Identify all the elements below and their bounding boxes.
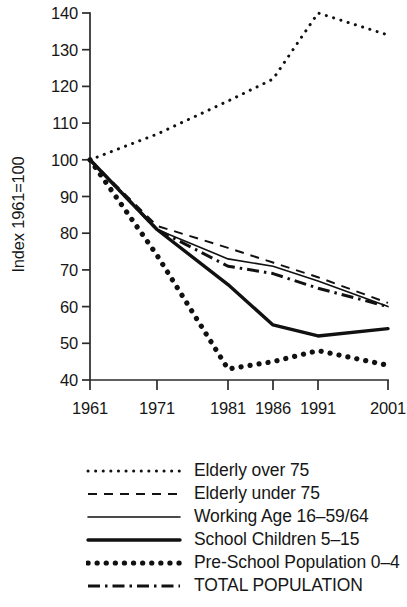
- x-axis-tick-label: 1986: [255, 399, 291, 417]
- legend-item: Pre-School Population 0–4: [86, 550, 400, 573]
- y-axis-tick-label: 60: [60, 298, 78, 316]
- legend-item-label: Pre-School Population 0–4: [194, 552, 400, 572]
- series-line-elderly-over-75: [90, 13, 388, 160]
- legend-item: Elderly over 75: [86, 458, 400, 481]
- x-axis-tick-label: 2001: [370, 399, 406, 417]
- chart-plot-area: Index 1961=100 4050607080901001101201301…: [0, 0, 407, 440]
- y-axis-tick-label: 40: [60, 371, 78, 389]
- legend-swatch-thick-solid: [86, 529, 182, 549]
- y-axis-tick-label: 90: [60, 188, 78, 206]
- x-axis-tick-label: 1991: [300, 399, 336, 417]
- y-axis-tick-label: 120: [51, 77, 78, 95]
- legend-item: Working Age 16–59/64: [86, 504, 400, 527]
- legend-item-label: Working Age 16–59/64: [194, 506, 369, 526]
- legend-item-label: TOTAL POPULATION: [194, 575, 363, 595]
- y-axis-tick-label: 50: [60, 334, 78, 352]
- legend-item-label: Elderly over 75: [194, 460, 309, 480]
- series-line-elderly-under-75: [90, 160, 388, 303]
- legend-item: Elderly under 75: [86, 481, 400, 504]
- legend-swatch-dash-dot: [86, 575, 182, 595]
- legend-item-label: Elderly under 75: [194, 483, 320, 503]
- legend-item-list: Elderly over 75Elderly under 75Working A…: [86, 458, 400, 596]
- chart-legend: Elderly over 75Elderly under 75Working A…: [0, 452, 407, 607]
- population-index-figure: Index 1961=100 4050607080901001101201301…: [0, 0, 407, 607]
- x-axis-tick-label: 1961: [72, 399, 108, 417]
- y-axis-tick-label: 100: [51, 151, 78, 169]
- legend-swatch-dashed: [86, 483, 182, 503]
- line-chart-svg: 4050607080901001101201301401961197119811…: [0, 0, 407, 440]
- y-axis-title: Index 1961=100: [9, 135, 28, 295]
- y-axis-tick-label: 130: [51, 41, 78, 59]
- x-axis-tick-label: 1971: [139, 399, 175, 417]
- series-line-pre-school-population-0-4: [90, 160, 388, 369]
- y-axis-tick-label: 140: [51, 4, 78, 22]
- y-axis-tick-label: 110: [52, 114, 78, 132]
- legend-swatch-fine-dotted: [86, 460, 182, 480]
- series-line-school-children-5-15: [90, 160, 388, 336]
- legend-item: School Children 5–15: [86, 527, 400, 550]
- legend-swatch-thin-solid: [86, 506, 182, 526]
- legend-item-label: School Children 5–15: [194, 529, 359, 549]
- legend-swatch-large-dotted: [86, 552, 182, 572]
- legend-item: TOTAL POPULATION: [86, 573, 400, 596]
- series-line-total-population: [90, 160, 388, 307]
- y-axis-tick-label: 70: [60, 261, 78, 279]
- y-axis-tick-label: 80: [60, 224, 78, 242]
- x-axis-tick-label: 1981: [210, 399, 246, 417]
- series-line-working-age-16-59-64: [90, 160, 388, 307]
- chart-axis-lines: [90, 13, 388, 380]
